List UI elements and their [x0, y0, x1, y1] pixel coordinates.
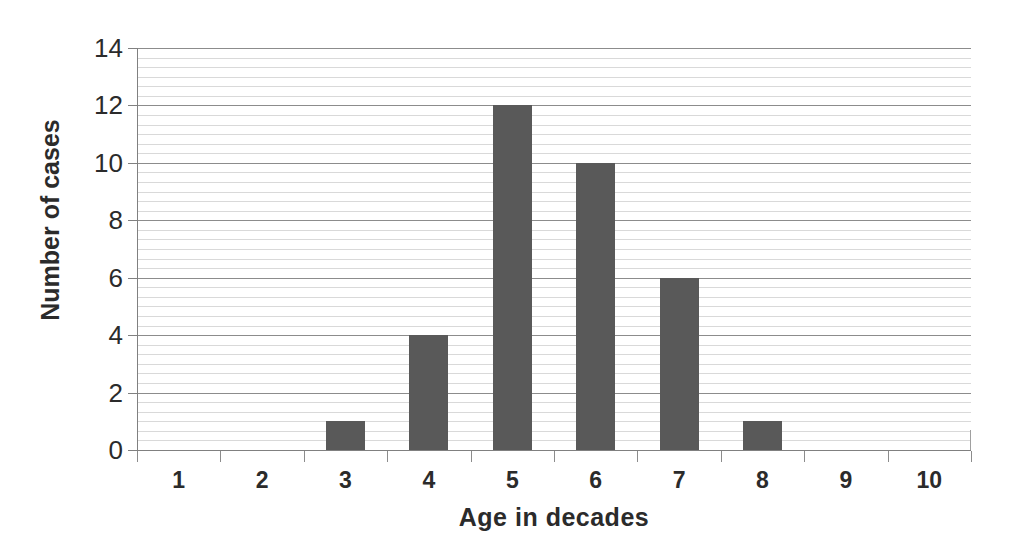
- x-tick-label: 7: [637, 467, 721, 494]
- x-tick-label: 3: [304, 467, 388, 494]
- x-axis-title: Age in decades: [137, 503, 971, 532]
- x-tick-label: 5: [470, 467, 554, 494]
- x-axis-ticks-and-labels: 12345678910: [0, 0, 1022, 556]
- x-tick-label: 8: [721, 467, 805, 494]
- x-tick-mark: [637, 451, 638, 462]
- x-tick-label: 2: [220, 467, 304, 494]
- x-tick-label: 9: [804, 467, 888, 494]
- x-tick-mark: [721, 451, 722, 462]
- x-tick-label: 4: [387, 467, 471, 494]
- x-tick-mark: [971, 451, 972, 462]
- x-tick-mark: [554, 451, 555, 462]
- x-tick-mark: [387, 451, 388, 462]
- x-tick-mark: [304, 451, 305, 462]
- x-tick-mark: [471, 451, 472, 462]
- x-tick-label: 1: [137, 467, 221, 494]
- x-tick-label: 10: [887, 467, 971, 494]
- bar-chart: Number of cases 02468101214 12345678910 …: [0, 0, 1022, 556]
- x-tick-mark: [888, 451, 889, 462]
- x-tick-mark: [220, 451, 221, 462]
- x-tick-label: 6: [554, 467, 638, 494]
- x-tick-mark: [137, 451, 138, 462]
- x-tick-mark: [804, 451, 805, 462]
